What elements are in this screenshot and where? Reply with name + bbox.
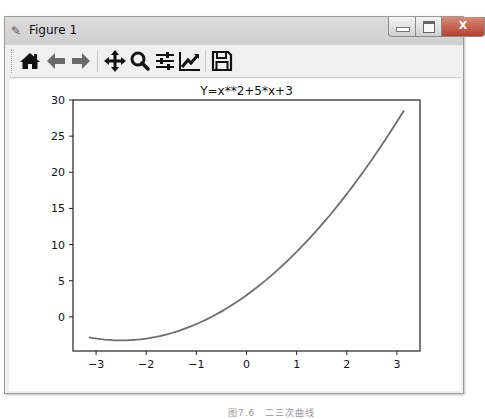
x-tick-label: 0: [243, 358, 250, 371]
maximize-button[interactable]: [415, 17, 442, 37]
move-icon: [103, 49, 127, 73]
forward-button[interactable]: [68, 48, 94, 74]
y-axis: 051015202530: [51, 94, 73, 324]
back-button[interactable]: [43, 48, 69, 74]
x-tick-label: −2: [138, 358, 154, 371]
figure-window: ✎ Figure 1 X: [4, 16, 464, 394]
home-button[interactable]: [17, 48, 43, 74]
axes-frame: [73, 100, 420, 351]
zoom-button[interactable]: [127, 48, 153, 74]
figure-canvas[interactable]: Y=x**2+5*x+3 −3−2−10123 051015202530: [9, 79, 461, 391]
close-button[interactable]: X: [441, 17, 485, 37]
x-axis: −3−2−10123: [88, 351, 400, 371]
y-tick-label: 10: [51, 239, 65, 252]
save-button[interactable]: [209, 48, 235, 74]
x-tick-label: 1: [293, 358, 300, 371]
sliders-icon: [154, 51, 176, 71]
y-tick-label: 5: [58, 275, 65, 288]
y-tick-label: 15: [51, 202, 65, 215]
pan-button[interactable]: [102, 48, 128, 74]
y-tick-label: 30: [51, 94, 65, 107]
magnifier-icon: [129, 50, 151, 72]
home-icon: [19, 51, 41, 71]
minimize-button[interactable]: [388, 17, 416, 37]
toolbar-grip[interactable]: [11, 49, 14, 73]
x-tick-label: 2: [343, 358, 350, 371]
x-tick-label: 3: [393, 358, 400, 371]
x-tick-label: −3: [88, 358, 104, 371]
maximize-icon: [423, 21, 435, 33]
toolbar-separator: [205, 50, 206, 72]
plot-area: Y=x**2+5*x+3 −3−2−10123 051015202530: [9, 79, 461, 391]
configure-subplots-button[interactable]: [152, 48, 178, 74]
y-tick-label: 20: [51, 166, 65, 179]
window-title: Figure 1: [29, 23, 77, 37]
figure-caption: 图7.6 二三次曲线: [228, 406, 315, 419]
toolbar-separator: [97, 50, 98, 72]
line-chart-icon: [178, 50, 202, 72]
y-tick-label: 0: [58, 311, 65, 324]
edit-axis-button[interactable]: [177, 48, 203, 74]
minimize-icon: [396, 27, 410, 32]
close-icon: X: [442, 19, 484, 32]
navigation-toolbar: [9, 45, 461, 78]
y-tick-label: 25: [51, 130, 65, 143]
figure-app-icon: ✎: [11, 24, 25, 38]
x-tick-label: −1: [188, 358, 204, 371]
chart-title: Y=x**2+5*x+3: [199, 84, 293, 98]
floppy-disk-icon: [211, 50, 233, 72]
arrow-left-icon: [45, 51, 67, 71]
arrow-right-icon: [70, 51, 92, 71]
